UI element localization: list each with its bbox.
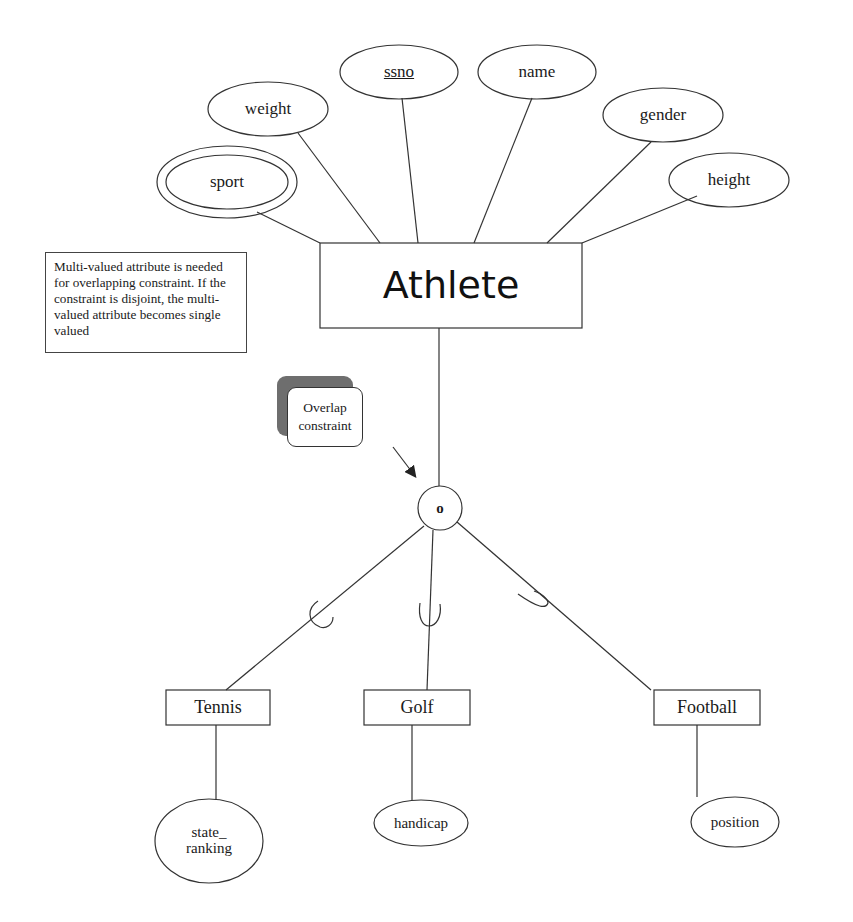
subclass-football-label: Football: [654, 690, 760, 725]
connector-football: [457, 522, 651, 690]
attr-state-ranking-line-2: ranking: [186, 840, 232, 857]
connector-golf: [427, 530, 433, 690]
connector-height: [582, 196, 697, 243]
connector-ssno: [402, 98, 418, 243]
attr-ssno-label: ssno: [339, 60, 459, 84]
attr-height-label: height: [669, 168, 789, 192]
attr-name-label: name: [477, 60, 597, 84]
overlap-callout: Overlap constraint: [287, 387, 363, 447]
connector-tennis: [226, 526, 424, 690]
diagram-canvas: [0, 0, 853, 922]
connector-sport: [257, 212, 320, 243]
attr-weight-label: weight: [208, 97, 328, 121]
attr-gender-label: gender: [603, 103, 723, 127]
attr-handicap-label: handicap: [371, 811, 471, 835]
subclass-tennis-label: Tennis: [166, 690, 270, 725]
attr-state-ranking-label: state_ ranking: [159, 815, 259, 865]
callout-line-2: constraint: [298, 417, 351, 435]
overlap-symbol: o: [418, 496, 462, 520]
attr-sport-label: sport: [167, 170, 287, 194]
subclass-golf-label: Golf: [364, 690, 470, 725]
connector-gender: [547, 142, 651, 243]
callout-line-1: Overlap: [298, 399, 351, 417]
entity-athlete-label: Athlete: [320, 243, 582, 328]
connector-weight: [298, 133, 380, 243]
callout-arrow: [393, 447, 415, 476]
attr-position-label: position: [685, 810, 785, 834]
subset-symbol-football: [518, 591, 548, 606]
connector-name: [474, 98, 532, 243]
annotation-note: Multi-valued attribute is needed for ove…: [45, 252, 247, 353]
attr-state-ranking-line-1: state_: [192, 824, 227, 841]
